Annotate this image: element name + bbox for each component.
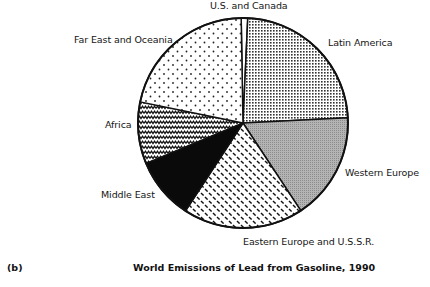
label-africa: Africa (105, 119, 132, 130)
label-middle-east: Middle East (101, 189, 155, 200)
label-us-canada: U.S. and Canada (210, 0, 288, 11)
label-latin-america: Latin America (328, 37, 392, 48)
pie-slice-latin-america (243, 18, 348, 123)
chart-title: World Emissions of Lead from Gasoline, 1… (133, 262, 375, 273)
label-eastern-europe-ussr: Eastern Europe and U.S.S.R. (243, 236, 374, 247)
label-western-europe: Western Europe (345, 167, 419, 178)
pie-slices (138, 18, 348, 228)
figure-label: (b) (7, 262, 22, 273)
label-far-east-oceania: Far East and Oceania (74, 34, 173, 45)
